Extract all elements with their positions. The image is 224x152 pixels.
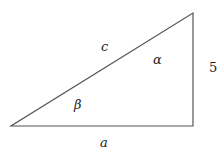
label-base-a: a — [100, 135, 108, 150]
label-side-5: 5 — [209, 60, 217, 75]
label-hypotenuse-c: c — [101, 39, 109, 54]
triangle-diagram: c α 5 β a — [0, 0, 224, 152]
label-angle-alpha: α — [153, 52, 162, 67]
right-triangle — [11, 13, 193, 126]
label-angle-beta: β — [73, 97, 82, 112]
